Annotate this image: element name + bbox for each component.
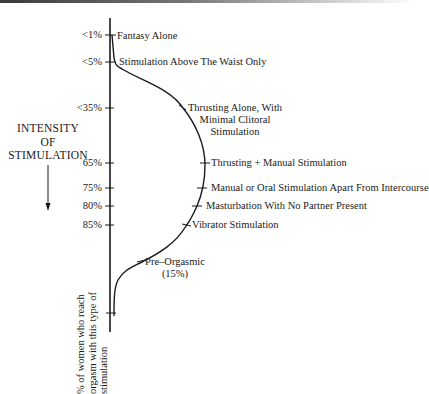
- label-masturbation: Masturbation With No Partner Present: [206, 200, 367, 212]
- label-thrusting-alone: Thrusting Alone, With Minimal Clitoral S…: [185, 102, 285, 138]
- tick-label-lt1: <1%: [62, 29, 102, 41]
- label-thrusting-alone-line1: Thrusting Alone, With: [185, 102, 285, 114]
- y-axis-label: % of women who reach orgasm with this ty…: [75, 282, 111, 394]
- tick-label-lt35: <35%: [62, 102, 102, 114]
- intensity-label: INTENSITY OF STIMULATION: [2, 122, 94, 163]
- label-thrusting-alone-line2: Minimal Clitoral: [185, 114, 285, 126]
- intensity-label-line1: INTENSITY: [2, 122, 94, 136]
- label-thrusting-manual: Thrusting + Manual Stimulation: [211, 157, 347, 169]
- tick-label-85: 85%: [62, 219, 102, 231]
- label-manual-oral: Manual or Oral Stimulation Apart From In…: [211, 182, 429, 194]
- arrow-down-head: [46, 203, 51, 211]
- intensity-label-line2: OF: [2, 136, 94, 150]
- y-axis-label-line2: orgasm with this type of: [87, 282, 99, 394]
- label-vibrator: Vibrator Stimulation: [192, 219, 279, 231]
- label-above-waist: Stimulation Above The Waist Only: [119, 56, 267, 68]
- tick-label-lt5: <5%: [62, 56, 102, 68]
- label-pre-orgasmic-line1: Pre–Orgasmic: [142, 256, 208, 268]
- y-axis-label-line1: % of women who reach: [75, 282, 87, 394]
- label-pre-orgasmic-line2: (15%): [142, 268, 208, 280]
- label-fantasy-alone: Fantasy Alone: [117, 30, 177, 42]
- intensity-label-line3: STIMULATION: [2, 149, 94, 163]
- tick-label-75: 75%: [62, 182, 102, 194]
- y-axis-label-line3: stimulation: [98, 282, 110, 394]
- label-pre-orgasmic: Pre–Orgasmic (15%): [142, 256, 208, 280]
- label-thrusting-alone-line3: Stimulation: [185, 126, 285, 138]
- tick-label-80: 80%: [62, 200, 102, 212]
